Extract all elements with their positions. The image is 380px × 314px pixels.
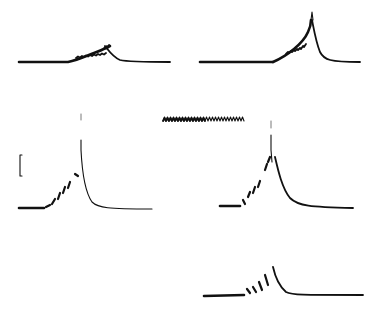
trace-panel-middle-right bbox=[220, 121, 353, 208]
physiology-figure bbox=[0, 0, 380, 314]
trace-panel-middle-left bbox=[19, 114, 152, 209]
trace-panel-bottom-right bbox=[204, 267, 363, 296]
scale-bar bbox=[20, 155, 22, 176]
trace-panel-top-right bbox=[200, 12, 360, 62]
trace-panel-top-left bbox=[19, 45, 170, 62]
stimulus-train bbox=[163, 117, 244, 121]
